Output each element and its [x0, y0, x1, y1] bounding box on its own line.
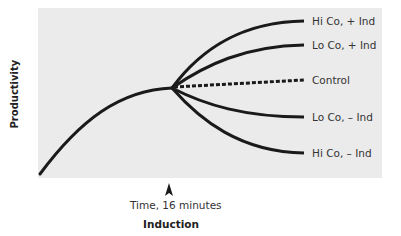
x-axis-label: Induction	[140, 218, 202, 230]
induction-time-label: Time, 16 minutes	[130, 199, 212, 211]
series-label-hi-co-minus-ind: Hi Co, – Ind	[312, 147, 372, 159]
arrow-up-icon	[164, 183, 174, 197]
pre-induction-curve	[40, 88, 172, 174]
series-label-hi-co-plus-ind: Hi Co, + Ind	[312, 15, 375, 27]
series-label-control: Control	[312, 74, 350, 86]
y-axis-label: Productivity	[9, 69, 20, 129]
series-line-lo-co-minus-ind	[172, 88, 304, 117]
series-label-lo-co-minus-ind: Lo Co, – Ind	[312, 111, 373, 123]
series-label-lo-co-plus-ind: Lo Co, + Ind	[312, 39, 376, 51]
series-line-control	[174, 80, 304, 87]
